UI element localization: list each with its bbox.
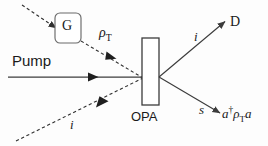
signal-output-beam-line <box>159 77 220 113</box>
pump-beam-arrowhead <box>88 73 99 82</box>
rho-t-beam-arrowhead <box>105 52 116 60</box>
signal-output-beam <box>159 77 220 113</box>
opa-label: OPA <box>131 110 158 123</box>
rho-t-label: ρT <box>99 26 112 43</box>
idler-output-beam <box>159 22 225 78</box>
source-input-dashed-line <box>22 5 56 28</box>
opa-crystal-body <box>142 38 159 105</box>
rho-t-symbol: ρ <box>99 25 106 40</box>
pump-label: Pump <box>12 53 51 68</box>
source-input-dashed-beam <box>22 5 56 28</box>
output-operator-label: a†ρTa <box>222 106 251 124</box>
rho-t-beam <box>81 41 143 78</box>
rho-t-subscript: T <box>106 32 112 43</box>
diagram-canvas <box>0 0 268 146</box>
idler-input-beam-line <box>16 78 143 141</box>
idler-input-beam-arrowhead <box>96 96 109 107</box>
rho-t-beam-line <box>81 41 143 78</box>
source-box-label: G <box>62 19 72 33</box>
opa-crystal <box>142 38 159 105</box>
pump-beam <box>8 73 143 82</box>
operator-a2-symbol: a <box>245 106 252 121</box>
signal-output-label: s <box>199 103 204 116</box>
idler-output-label: i <box>194 30 198 43</box>
idler-output-beam-line <box>159 22 225 78</box>
idler-input-label: i <box>70 118 74 131</box>
opa-quantum-illumination-diagram: Pump G ρT OPA i D s a†ρTa i <box>0 0 268 146</box>
idler-input-beam <box>16 78 143 141</box>
detector-label: D <box>230 15 240 29</box>
